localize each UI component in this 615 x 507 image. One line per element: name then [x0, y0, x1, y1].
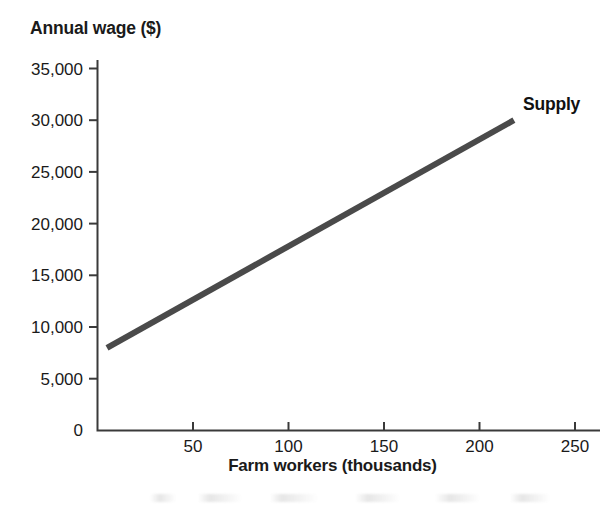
x-tick-label-100: 100	[274, 437, 302, 456]
x-axis-ticks	[193, 422, 575, 431]
y-axis-tick-labels: 35,000 30,000 25,000 20,000 15,000 10,00…	[31, 60, 83, 441]
plot-area: 35,000 30,000 25,000 20,000 15,000 10,00…	[0, 0, 615, 507]
x-tick-label-150: 150	[370, 437, 398, 456]
supply-curve-chart: Annual wage ($) 35,000 30,000 25,000 20,…	[0, 0, 615, 507]
x-axis-title: Farm workers (thousands)	[0, 456, 615, 476]
y-tick-label-15000: 15,000	[31, 266, 83, 285]
x-tick-label-50: 50	[184, 437, 203, 456]
axis-spines	[98, 60, 601, 431]
supply-series-label: Supply	[523, 94, 581, 114]
x-tick-label-250: 250	[561, 437, 589, 456]
y-tick-label-35000: 35,000	[31, 60, 83, 79]
y-tick-label-25000: 25,000	[31, 163, 83, 182]
y-tick-label-0: 0	[74, 421, 83, 440]
scan-artifact	[150, 494, 580, 502]
supply-curve-line	[107, 120, 514, 348]
x-axis-title-text: Farm workers (thousands)	[228, 456, 437, 475]
y-tick-label-20000: 20,000	[31, 215, 83, 234]
y-axis-ticks	[89, 69, 98, 379]
y-tick-label-5000: 5,000	[40, 370, 83, 389]
y-tick-label-30000: 30,000	[31, 111, 83, 130]
x-axis-tick-labels: 50 100 150 200 250	[184, 437, 590, 456]
x-tick-label-200: 200	[465, 437, 493, 456]
y-tick-label-10000: 10,000	[31, 318, 83, 337]
